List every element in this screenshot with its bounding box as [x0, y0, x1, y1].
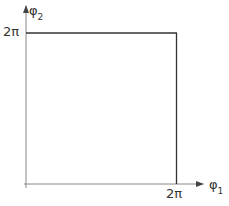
- phase-torus-diagram: φ2 2π 2π φ1: [0, 0, 229, 206]
- diagram-graphics: [0, 0, 229, 206]
- x-axis-subscript: 1: [218, 186, 224, 196]
- x-axis-symbol: φ: [209, 177, 218, 192]
- x-tick-2pi: 2π: [166, 186, 182, 201]
- y-axis-label: φ2: [29, 3, 43, 18]
- y-tick-2pi: 2π: [3, 24, 19, 39]
- y-axis-symbol: φ: [29, 3, 38, 18]
- y-axis-subscript: 2: [38, 12, 44, 22]
- x-axis-label: φ1: [209, 177, 223, 192]
